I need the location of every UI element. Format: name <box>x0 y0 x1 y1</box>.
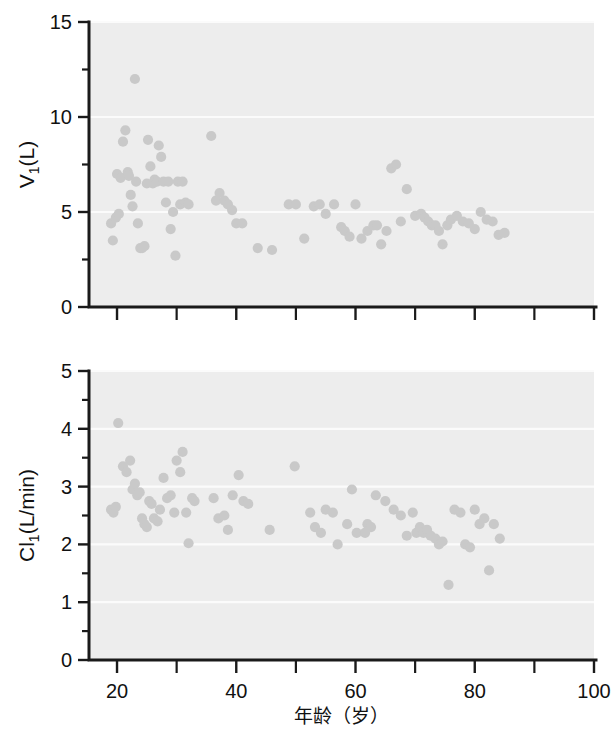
y-tick-label: 2 <box>61 533 72 555</box>
x-tick-label: 20 <box>106 680 128 702</box>
data-point <box>243 499 253 509</box>
data-point <box>189 496 199 506</box>
y-axis-title-subscript: 1 <box>26 166 42 174</box>
figure-canvas: 051015V1(L)01234520406080100Cl1(L/min)年龄… <box>0 0 611 742</box>
data-point <box>455 508 465 518</box>
data-point <box>366 522 376 532</box>
y-tick-label: 0 <box>61 296 72 318</box>
data-point <box>125 455 135 465</box>
data-point <box>158 473 168 483</box>
data-point <box>291 199 301 209</box>
data-point <box>143 135 153 145</box>
data-point <box>484 565 494 575</box>
data-point <box>434 226 444 236</box>
data-point <box>156 152 166 162</box>
data-point <box>376 239 386 249</box>
data-point <box>234 470 244 480</box>
y-tick-label: 15 <box>50 11 72 33</box>
data-point <box>147 499 157 509</box>
data-point <box>121 467 131 477</box>
data-point <box>402 184 412 194</box>
data-point <box>181 508 191 518</box>
data-point <box>372 220 382 230</box>
data-point <box>168 207 178 217</box>
data-point <box>470 224 480 234</box>
data-point <box>371 490 381 500</box>
data-point <box>328 508 338 518</box>
y-tick-label: 0 <box>61 649 72 671</box>
data-point <box>145 161 155 171</box>
data-point <box>175 467 185 477</box>
data-point <box>118 137 128 147</box>
y-tick-label: 10 <box>50 106 72 128</box>
data-point <box>166 490 176 500</box>
y-axis-title-main: Cl <box>15 542 38 562</box>
data-point <box>315 199 325 209</box>
data-point <box>131 177 141 187</box>
chart-panel-top: 051015V1(L) <box>15 11 596 320</box>
scatter-figure: 051015V1(L)01234520406080100Cl1(L/min)年龄… <box>0 0 611 742</box>
data-point <box>299 234 309 244</box>
data-point <box>402 531 412 541</box>
data-point <box>347 484 357 494</box>
data-point <box>437 536 447 546</box>
x-tick-label: 100 <box>577 680 610 702</box>
y-tick-label: 1 <box>61 591 72 613</box>
data-point <box>237 218 247 228</box>
data-point <box>267 245 277 255</box>
data-point <box>290 461 300 471</box>
data-point <box>114 209 124 219</box>
data-point <box>228 490 238 500</box>
data-point <box>333 539 343 549</box>
data-point <box>344 232 354 242</box>
x-tick-label: 60 <box>344 680 366 702</box>
x-axis-title: 年龄（岁） <box>294 705 389 727</box>
data-point <box>120 125 130 135</box>
data-point <box>166 224 176 234</box>
data-point <box>350 199 360 209</box>
y-axis-title-unit: (L) <box>15 141 38 167</box>
data-point <box>155 505 165 515</box>
data-point <box>126 190 136 200</box>
data-point <box>183 538 193 548</box>
data-point <box>381 226 391 236</box>
plot-background <box>89 371 594 660</box>
data-point <box>183 199 193 209</box>
data-point <box>489 519 499 529</box>
data-point <box>408 508 418 518</box>
y-axis-title: V1(L) <box>15 141 42 188</box>
data-point <box>142 522 152 532</box>
data-point <box>227 205 237 215</box>
y-axis-title: Cl1(L/min) <box>15 469 42 562</box>
data-point <box>206 131 216 141</box>
data-point <box>495 534 505 544</box>
data-point <box>342 519 352 529</box>
data-point <box>170 251 180 261</box>
data-point <box>113 418 123 428</box>
data-point <box>130 479 140 489</box>
data-point <box>329 199 339 209</box>
data-point <box>127 201 137 211</box>
data-point <box>133 218 143 228</box>
y-axis-title-main: V <box>15 174 38 188</box>
data-point <box>130 74 140 84</box>
data-point <box>135 487 145 497</box>
data-point <box>169 508 179 518</box>
data-point <box>172 455 182 465</box>
y-tick-label: 5 <box>61 360 72 382</box>
data-point <box>253 243 263 253</box>
data-point <box>163 177 173 187</box>
data-point <box>465 542 475 552</box>
x-tick-label: 80 <box>464 680 486 702</box>
data-point <box>178 177 188 187</box>
data-point <box>479 513 489 523</box>
y-tick-label: 5 <box>61 201 72 223</box>
chart-panel-bottom: 01234520406080100Cl1(L/min) <box>15 360 611 702</box>
data-point <box>470 505 480 515</box>
data-point <box>152 516 162 526</box>
x-tick-label: 40 <box>225 680 247 702</box>
y-axis-title-subscript: 1 <box>26 534 42 542</box>
data-point <box>316 528 326 538</box>
data-point <box>161 197 171 207</box>
data-point <box>321 209 331 219</box>
